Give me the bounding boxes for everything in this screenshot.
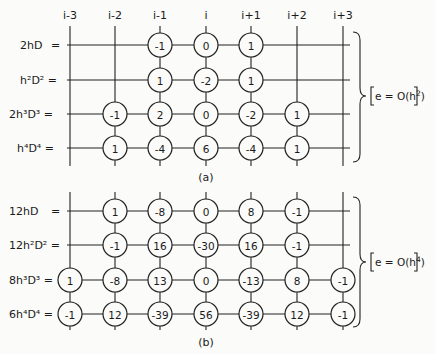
stencil-coefficient: 12 (103, 302, 127, 326)
row-label-h4D4: h⁴D⁴ = (17, 142, 54, 155)
svg-text:0: 0 (203, 109, 210, 121)
svg-text:-39: -39 (151, 309, 168, 321)
stencil-coefficient: -8 (103, 268, 127, 292)
column-headers: i-3i-2i-1ii+1i+2i+3 (63, 9, 353, 22)
svg-text:-30: -30 (197, 240, 214, 252)
svg-text:-2: -2 (201, 75, 211, 87)
stencil-coefficient: 13 (148, 268, 172, 292)
column-header: i+2 (287, 9, 306, 22)
stencil-coefficient: -4 (239, 136, 263, 160)
svg-text:0: 0 (203, 275, 210, 287)
error-order-label-a: e = O(h2) (371, 87, 425, 105)
panel-a-second-order: -1011-21-120-211-46-41 (67, 26, 350, 166)
stencil-coefficient: 1 (239, 33, 263, 57)
stencil-coefficient: 1 (239, 68, 263, 92)
svg-text:0: 0 (203, 206, 210, 218)
stencil-coefficient: 1 (148, 68, 172, 92)
svg-text:16: 16 (244, 240, 258, 252)
brace-icon-panel-a (353, 32, 366, 162)
stencil-coefficient: 16 (239, 233, 263, 257)
stencil-coefficient: -1 (285, 233, 309, 257)
stencil-coefficient: -1 (331, 302, 355, 326)
column-header: i-2 (108, 9, 122, 22)
caption-b: (b) (198, 336, 214, 349)
svg-text:56: 56 (199, 309, 213, 321)
stencil-coefficient: -8 (148, 199, 172, 223)
stencil-coefficient: 8 (285, 268, 309, 292)
row-label-h2D2: h²D² = (20, 74, 57, 87)
svg-text:1: 1 (294, 109, 301, 121)
row-label-8h3D3: 8h³D³ = (9, 274, 53, 287)
svg-text:1: 1 (67, 275, 74, 287)
svg-text:1: 1 (157, 75, 164, 87)
panel-b-fourth-order: 1-808-1-116-3016-11-8130-138-1-112-3956-… (58, 192, 355, 330)
svg-text:8: 8 (294, 275, 301, 287)
row-labels-panel-a: 2hD = h²D² = 2h³D³ = h⁴D⁴ = (9, 39, 60, 155)
stencil-coefficient: 1 (103, 136, 127, 160)
row-label-2hD: 2hD (20, 39, 42, 52)
svg-text:-1: -1 (110, 109, 120, 121)
row-label-6h4D4: 6h⁴D⁴ = (9, 308, 53, 321)
svg-text:1: 1 (294, 143, 301, 155)
column-header: i+3 (333, 9, 352, 22)
svg-text:8: 8 (248, 206, 255, 218)
error-text: e = O(h (375, 90, 416, 102)
svg-text:-39: -39 (242, 309, 259, 321)
svg-text:12: 12 (108, 309, 121, 321)
brace-icon-panel-b (353, 197, 366, 327)
svg-text:12: 12 (290, 309, 303, 321)
stencil-coefficient: 16 (148, 233, 172, 257)
finite-difference-stencil-diagram: i-3i-2i-1ii+1i+2i+3 -1011-21-120-211-46-… (0, 0, 435, 354)
stencil-coefficient: 1 (103, 199, 127, 223)
stencil-coefficient: 6 (194, 136, 218, 160)
stencil-coefficient: -1 (285, 199, 309, 223)
column-header: i+1 (241, 9, 260, 22)
row-label-12hD: 12hD (9, 205, 38, 218)
row-label-equals: = (51, 205, 60, 218)
stencil-coefficient: -1 (331, 268, 355, 292)
svg-text:-1: -1 (338, 309, 348, 321)
stencil-coefficient: -13 (239, 268, 263, 292)
svg-text:-13: -13 (242, 275, 259, 287)
svg-text:-1: -1 (338, 275, 348, 287)
stencil-coefficient: -39 (239, 302, 263, 326)
stencil-coefficient: -30 (194, 233, 218, 257)
error-order-label-b: e = O(h4) (371, 253, 425, 271)
stencil-coefficient: 8 (239, 199, 263, 223)
svg-text:-2: -2 (246, 109, 256, 121)
svg-text:-8: -8 (155, 206, 165, 218)
svg-text:-1: -1 (292, 206, 302, 218)
column-header: i-3 (63, 9, 77, 22)
svg-text:1: 1 (112, 143, 119, 155)
svg-text:2: 2 (157, 109, 164, 121)
stencil-coefficient: 1 (285, 102, 309, 126)
stencil-coefficient: 12 (285, 302, 309, 326)
svg-text:1: 1 (112, 206, 119, 218)
row-label-12h2D2: 12h²D² = (9, 239, 60, 252)
stencil-coefficient: 0 (194, 33, 218, 57)
error-text: e = O(h (375, 256, 416, 268)
svg-text:6: 6 (203, 143, 210, 155)
svg-text:13: 13 (153, 275, 166, 287)
stencil-coefficient: 1 (58, 268, 82, 292)
svg-text:-4: -4 (246, 143, 257, 155)
stencil-coefficient: 56 (194, 302, 218, 326)
row-label-2h3D3: 2h³D³ = (9, 108, 53, 121)
svg-text:1: 1 (248, 75, 255, 87)
caption-a: (a) (198, 171, 213, 184)
stencil-coefficient: -2 (239, 102, 263, 126)
stencil-coefficient: 2 (148, 102, 172, 126)
stencil-coefficient: 0 (194, 268, 218, 292)
svg-text:-1: -1 (155, 40, 165, 52)
stencil-coefficient: -1 (103, 233, 127, 257)
stencil-coefficient: -2 (194, 68, 218, 92)
row-label-equals: = (51, 39, 60, 52)
column-header: i (204, 9, 207, 22)
svg-text:1: 1 (248, 40, 255, 52)
stencil-coefficient: -39 (148, 302, 172, 326)
stencil-coefficient: 1 (285, 136, 309, 160)
svg-text:-1: -1 (110, 240, 120, 252)
stencil-coefficient: -1 (58, 302, 82, 326)
svg-text:0: 0 (203, 40, 210, 52)
row-labels-panel-b: 12hD = 12h²D² = 8h³D³ = 6h⁴D⁴ = (9, 205, 60, 321)
